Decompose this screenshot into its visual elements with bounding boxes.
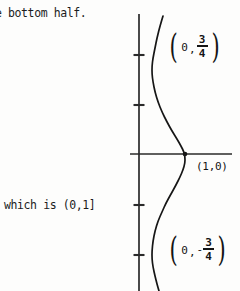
intercept-point-marker <box>183 152 188 157</box>
upper-point-comma: , <box>189 43 196 56</box>
lower-point-x: 0 <box>181 244 188 257</box>
label-axis-intercept: (1,0) <box>196 160 228 173</box>
lower-point-comma: , <box>189 246 196 259</box>
lower-point-denominator: 4 <box>204 251 213 262</box>
upper-point-x: 0 <box>181 41 188 54</box>
upper-point-fraction: 3 4 <box>197 34 208 59</box>
lower-point-minus-sign: - <box>197 243 204 256</box>
left-paren-upper: ( <box>170 33 178 60</box>
left-paren-lower: ( <box>170 236 178 263</box>
upper-point-numerator: 3 <box>198 34 207 45</box>
right-paren-upper: ) <box>211 33 219 60</box>
label-lower-point: ( 0 , - 3 4 ) <box>167 236 228 265</box>
lower-point-numerator: 3 <box>204 237 213 248</box>
upper-point-denominator: 4 <box>198 48 207 59</box>
right-paren-lower: ) <box>218 236 226 263</box>
label-upper-point: ( 0 , 3 4 ) <box>167 33 222 62</box>
scanned-math-figure-page: e bottom half. which is (0,1] ( 0 , 3 <box>0 0 240 291</box>
lower-point-fraction: 3 4 <box>203 237 214 262</box>
